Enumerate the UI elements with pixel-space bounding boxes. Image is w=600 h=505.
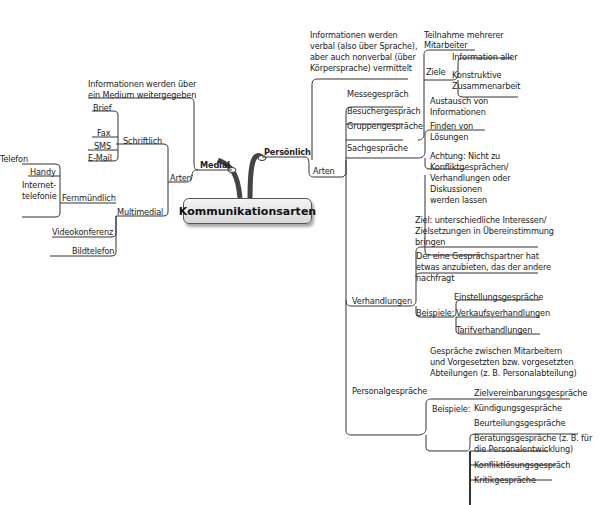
beispiel-verkaufsverhandlungen[interactable]: Verkaufsverhandlungen	[456, 308, 550, 319]
medial-description-1: Informationen werden über	[88, 79, 196, 90]
schriftlich-item-brief[interactable]: Brief	[93, 103, 111, 114]
beispiel-einstellungsgespraeche[interactable]: Einstellungsgespräche	[454, 292, 543, 303]
beispiel-kritikgespraeche[interactable]: Kritikgespräche	[474, 475, 536, 486]
beispiel-tarifverhandlungen[interactable]: Tarifverhandlungen	[456, 325, 532, 336]
sach-achtung-1[interactable]: Achtung: Nicht zu	[430, 151, 500, 162]
schriftlich-item-fax[interactable]: Fax	[97, 128, 110, 139]
sach-achtung-2[interactable]: Konfliktgesprächen/	[430, 162, 508, 173]
persoenlich-description-3: aber auch nonverbal (über	[310, 52, 416, 63]
fernmuendlich-item-telefon[interactable]: Telefon	[0, 154, 28, 165]
ziele-item-information-aller[interactable]: Information aller	[452, 52, 517, 63]
beispiel-beratungsgespraeche-2[interactable]: die Personalentwicklung)	[474, 444, 573, 455]
verhandlungen-ziel-1[interactable]: Ziel: unterschiedliche Interessen/	[415, 215, 546, 226]
sach-item-finden-1[interactable]: Finden von	[430, 121, 473, 132]
messegespraech-node[interactable]: Messegespräch	[347, 89, 409, 100]
personalgespraeche-node[interactable]: Personalgespräche	[352, 386, 427, 397]
multimedial-item-bildtelefon[interactable]: Bildtelefon	[72, 246, 114, 257]
verhandlungen-partner-1[interactable]: Der eine Gesprächspartner hat	[416, 251, 539, 262]
beispiel-zielvereinbarungsgespraeche[interactable]: Zielvereinbarungsgespräche	[474, 388, 587, 399]
personal-description-1[interactable]: Gespräche zwischen Mitarbeitern	[430, 346, 562, 357]
schriftlich-item-email[interactable]: E-Mail	[88, 153, 112, 164]
sach-item-finden-2[interactable]: Lösungen	[430, 132, 468, 143]
verhandlungen-node[interactable]: Verhandlungen	[352, 296, 412, 307]
persoenlich-description-2: verbal (also über Sprache),	[310, 41, 417, 52]
medial-arten-node[interactable]: Arten	[170, 173, 192, 184]
gruppengespraeche-node[interactable]: Gruppengespräche	[347, 121, 423, 132]
personal-beispiele-node[interactable]: Beispiele:	[432, 404, 470, 415]
besuchergespraech-node[interactable]: Besuchergespräch	[347, 106, 420, 117]
persoenlich-node[interactable]: Persönlich	[264, 147, 311, 158]
personal-description-2[interactable]: und Vorgesetzten bzw. vorgesetzten	[430, 357, 574, 368]
medial-node[interactable]: Medial	[200, 160, 230, 171]
beispiel-beurteilungsgespraeche[interactable]: Beurteilungsgespräche	[474, 418, 566, 429]
persoenlich-description-1: Informationen werden	[310, 30, 398, 41]
sach-item-austausch-2[interactable]: Informationen	[430, 107, 486, 118]
schriftlich-item-sms[interactable]: SMS	[94, 141, 111, 152]
verhandlungen-ziel-3[interactable]: bringen	[415, 237, 445, 248]
sach-achtung-4[interactable]: Diskussionen	[430, 184, 482, 195]
ziele-item-konstruktive-2[interactable]: Zusammenarbeit	[452, 81, 520, 92]
sach-achtung-3[interactable]: Verhandlungen oder	[430, 173, 510, 184]
verhandlungen-beispiele-node[interactable]: Beispiele:	[416, 308, 454, 319]
sachgespraeche-node[interactable]: Sachgespräche	[347, 143, 408, 154]
beispiel-konfliktloesungsgespraech[interactable]: Konfliktlösungsgespräch	[474, 460, 570, 471]
personal-description-3[interactable]: Abteilungen (z. B. Personalabteilung)	[430, 368, 577, 379]
fernmuendlich-item-handy[interactable]: Handy	[30, 167, 56, 178]
ziele-item-konstruktive-1[interactable]: Konstruktive	[452, 70, 502, 81]
fernmuendlich-item-internet-2[interactable]: telefonie	[22, 191, 57, 202]
verhandlungen-partner-3[interactable]: nachfragt	[416, 273, 454, 284]
beispiel-kuendigungsgespraeche[interactable]: Kündigungsgespräche	[474, 403, 562, 414]
central-node-label: Kommunikationsarten	[179, 205, 316, 218]
multimedial-item-videokonferenz[interactable]: Videokonferenz	[52, 227, 113, 238]
verhandlungen-ziel-2[interactable]: Zielsetzungen in Übereinstimmung	[415, 226, 554, 237]
multimedial-node[interactable]: Multimedial	[117, 207, 163, 218]
central-node[interactable]: Kommunikationsarten	[183, 198, 312, 224]
persoenlich-arten-node[interactable]: Arten	[313, 166, 335, 177]
verhandlungen-partner-2[interactable]: etwas anzubieten, das der andere	[416, 262, 551, 273]
gruppen-teilnahme-2[interactable]: Mitarbeiter	[424, 40, 467, 51]
ziele-node[interactable]: Ziele	[426, 67, 445, 78]
sach-achtung-5[interactable]: werden lassen	[430, 195, 487, 206]
persoenlich-description-4: Körpersprache) vermittelt	[310, 63, 412, 74]
beispiel-beratungsgespraeche-1[interactable]: Beratungsgespräche (z. B. für	[474, 433, 592, 444]
fernmuendlich-item-internet-1[interactable]: Internet-	[22, 180, 56, 191]
fernmuendlich-node[interactable]: Fernmündlich	[62, 193, 116, 204]
sach-item-austausch-1[interactable]: Austausch von	[430, 96, 488, 107]
schriftlich-node[interactable]: Schriftlich	[123, 136, 162, 147]
medial-description-2: ein Medium weitergegeben	[88, 90, 196, 101]
